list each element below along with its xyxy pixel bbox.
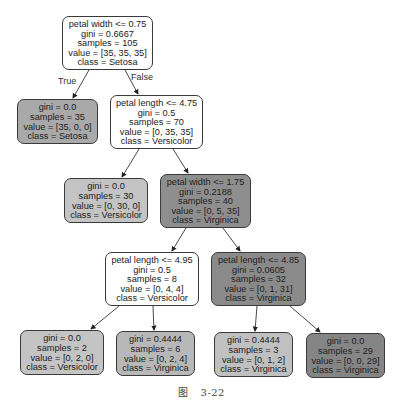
node-class: class = Setosa: [18, 132, 97, 142]
node-class: class = Versicolor: [21, 363, 103, 373]
tree-node-root: petal width <= 0.75 gini = 0.6667 sample…: [62, 16, 153, 70]
node-class: class = Virginica: [117, 364, 194, 374]
node-class: class = Versicolor: [106, 294, 198, 304]
tree-node-petal-width-1-75: petal width <= 1.75 gini = 0.2188 sample…: [160, 174, 251, 228]
figure-label: 图: [178, 387, 189, 398]
tree-node-petal-length-4-95: petal length <= 4.95 gini = 0.5 samples …: [105, 252, 199, 306]
figure-number: 3-22: [201, 387, 225, 398]
tree-node-leaf-setosa: gini = 0.0 samples = 35 value = [35, 0, …: [17, 99, 98, 144]
node-class: class = Versicolor: [111, 137, 202, 147]
tree-node-leaf-virginica-29: gini = 0.0 samples = 29 value = [0, 0, 2…: [306, 333, 385, 378]
edge-label-false: False: [131, 72, 153, 82]
tree-node-leaf-versicolor-2: gini = 0.0 samples = 2 value = [0, 2, 0]…: [20, 330, 104, 375]
node-class: class = Virginica: [215, 365, 292, 375]
tree-node-leaf-versicolor-30: gini = 0.0 samples = 30 value = [0, 30, …: [64, 178, 148, 223]
node-class: class = Virginica: [307, 366, 384, 376]
edge-label-true: True: [58, 76, 76, 86]
node-class: class = Versicolor: [65, 211, 147, 221]
tree-node-leaf-virginica-6: gini = 0.4444 samples = 6 value = [0, 2,…: [116, 331, 195, 376]
node-class: class = Virginica: [212, 294, 305, 304]
tree-node-petal-length-4-75: petal length <= 4.75 gini = 0.5 samples …: [110, 95, 203, 149]
tree-node-leaf-virginica-3: gini = 0.4444 samples = 3 value = [0, 1,…: [214, 332, 293, 377]
node-class: class = Setosa: [63, 58, 152, 68]
figure-caption: 图3-22: [0, 384, 403, 399]
tree-node-petal-length-4-85: petal length <= 4.85 gini = 0.0605 sampl…: [211, 252, 306, 306]
node-class: class = Virginica: [161, 216, 250, 226]
